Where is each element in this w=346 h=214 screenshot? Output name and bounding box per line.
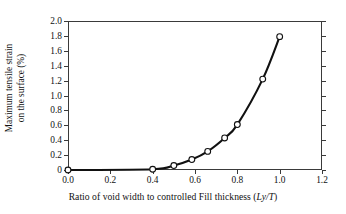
plot-area: 00.20.40.60.81.01.21.41.61.82.00.00.20.4… — [68, 21, 322, 170]
y-tick-right — [322, 36, 326, 37]
x-tick — [280, 170, 281, 174]
x-axis-title-suffix: ) — [274, 191, 277, 202]
x-tick-label: 0.8 — [231, 175, 243, 185]
x-axis-title: Ratio of void width to controlled Fill t… — [0, 191, 346, 202]
y-tick-right — [322, 81, 326, 82]
y-tick-right — [322, 110, 326, 111]
data-point-marker — [189, 157, 195, 163]
data-point-marker — [150, 166, 156, 172]
x-tick — [237, 170, 238, 174]
y-tick-label: 1.6 — [50, 46, 62, 56]
y-tick-right — [322, 96, 326, 97]
y-tick-label: 0.2 — [50, 150, 62, 160]
y-axis-title-line-2: on the surface (%) — [15, 3, 27, 173]
chart-figure: Maximum tensile strain on the surface (%… — [0, 0, 346, 214]
data-point-marker — [222, 135, 228, 141]
x-axis-title-prefix: Ratio of void width to controlled Fill t… — [69, 191, 257, 202]
y-tick-label: 0.8 — [50, 105, 62, 115]
y-tick-right — [322, 21, 326, 22]
x-tick — [322, 170, 323, 174]
y-axis-title-line-1: Maximum tensile strain — [4, 3, 16, 173]
y-tick-label: 1.2 — [50, 76, 62, 86]
x-tick-label: 0.4 — [147, 175, 159, 185]
y-tick-label: 2.0 — [50, 16, 62, 26]
data-point-marker — [171, 163, 177, 169]
x-tick-label: 0.0 — [62, 175, 74, 185]
x-tick-label: 1.2 — [316, 175, 328, 185]
data-point-marker — [65, 167, 71, 173]
y-tick-label: 1.4 — [50, 61, 62, 71]
x-tick-label: 1.0 — [274, 175, 286, 185]
data-series-curve — [68, 21, 322, 170]
y-tick-label: 1.0 — [50, 91, 62, 101]
series-line — [68, 37, 280, 170]
y-tick-label: 0.4 — [50, 135, 62, 145]
y-tick-right — [322, 140, 326, 141]
y-tick-right — [322, 51, 326, 52]
x-tick — [195, 170, 196, 174]
y-axis-title: Maximum tensile strain on the surface (%… — [2, 8, 28, 168]
x-tick-label: 0.2 — [104, 175, 116, 185]
data-point-marker — [234, 122, 240, 128]
y-tick-right — [322, 125, 326, 126]
y-tick-label: 1.8 — [50, 31, 62, 41]
y-tick-right — [322, 155, 326, 156]
x-tick-label: 0.6 — [189, 175, 201, 185]
y-tick-label: 0.6 — [50, 120, 62, 130]
data-point-marker — [260, 76, 266, 82]
data-point-marker — [205, 148, 211, 154]
data-point-marker — [277, 34, 283, 40]
x-axis-title-symbol: Ly/T — [257, 191, 275, 202]
y-tick-label: 0 — [57, 165, 62, 175]
y-tick-right — [322, 66, 326, 67]
